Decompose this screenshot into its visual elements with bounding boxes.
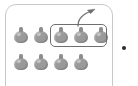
marker-dot (122, 46, 126, 50)
object-slot[interactable] (12, 53, 30, 72)
round-object-icon[interactable] (34, 58, 48, 70)
round-object-icon[interactable] (14, 31, 28, 43)
round-object-icon[interactable] (54, 58, 68, 70)
object-slot[interactable] (52, 53, 70, 72)
object-slot[interactable] (72, 53, 90, 72)
round-object-icon[interactable] (34, 31, 48, 43)
object-slot[interactable] (32, 53, 50, 72)
selection-rectangle[interactable] (50, 24, 107, 47)
object-slot[interactable] (32, 26, 50, 45)
round-object-icon[interactable] (74, 58, 88, 70)
round-object-icon[interactable] (14, 58, 28, 70)
object-row-bottom (12, 53, 92, 72)
object-slot[interactable] (12, 26, 30, 45)
canvas (0, 0, 138, 86)
